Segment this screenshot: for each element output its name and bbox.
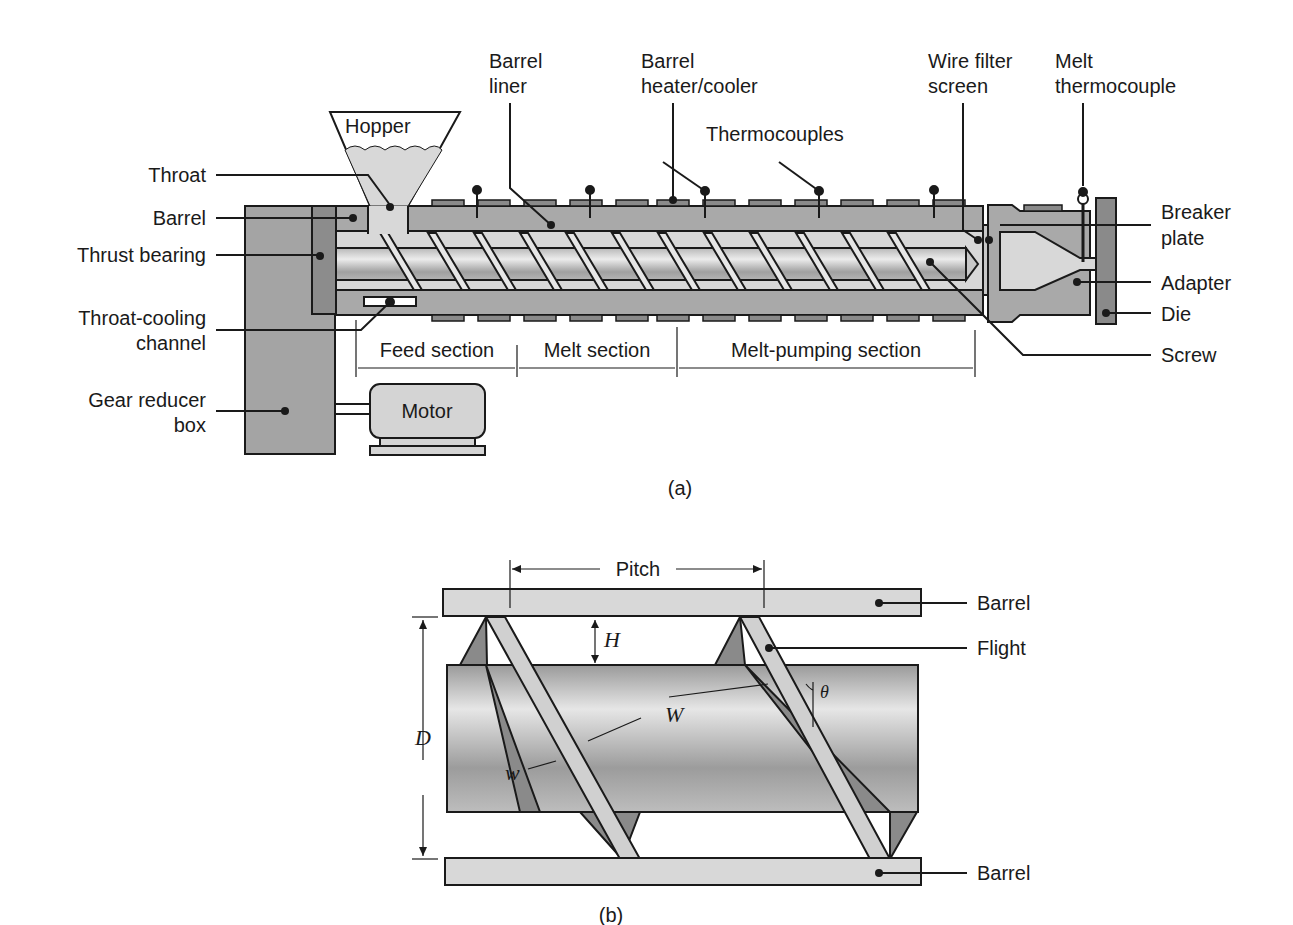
label-melt-thermocouple: Melt [1055, 50, 1093, 72]
label-throat-cooling: Throat-cooling [78, 307, 206, 329]
label-barrel-heater: Barrel [641, 50, 694, 72]
extruder-diagram: Barrel liner Barrel heater/cooler Wire f… [0, 0, 1293, 925]
label-W: W [665, 702, 685, 727]
barrel-top [443, 589, 921, 616]
svg-text:Hopper: Hopper [345, 115, 411, 137]
label-adapter: Adapter [1161, 272, 1231, 294]
svg-text:Wire filter: Wire filter [928, 50, 1013, 72]
svg-text:box: box [174, 414, 206, 436]
svg-text:θ: θ [820, 682, 829, 702]
label-w: w [505, 760, 520, 785]
label-wire-filter: Wire filter [928, 50, 1013, 72]
die [1096, 198, 1116, 324]
svg-text:Throat-cooling: Throat-cooling [78, 307, 206, 329]
svg-text:thermocouple: thermocouple [1055, 75, 1176, 97]
svg-text:heater/cooler: heater/cooler [641, 75, 758, 97]
svg-text:Flight: Flight [977, 637, 1026, 659]
svg-text:w: w [505, 760, 520, 785]
label-melt-section: Melt section [544, 339, 651, 361]
svg-text:screen: screen [928, 75, 988, 97]
svg-text:H: H [603, 627, 621, 652]
svg-text:Thermocouples: Thermocouples [706, 123, 844, 145]
svg-text:Barrel: Barrel [977, 862, 1030, 884]
label-melt-pumping: Melt-pumping section [731, 339, 921, 361]
label-throat: Throat [148, 164, 206, 186]
svg-text:Pitch: Pitch [616, 558, 660, 580]
svg-text:Melt-pumping section: Melt-pumping section [731, 339, 921, 361]
svg-text:Barrel: Barrel [489, 50, 542, 72]
label-barrel-bottom: Barrel [977, 862, 1030, 884]
label-screw: Screw [1161, 344, 1217, 366]
label-thrust-bearing: Thrust bearing [77, 244, 206, 266]
label-H: H [603, 627, 621, 652]
label-barrel: Barrel [153, 207, 206, 229]
svg-text:Thrust bearing: Thrust bearing [77, 244, 206, 266]
svg-text:Die: Die [1161, 303, 1191, 325]
svg-text:Breaker: Breaker [1161, 201, 1231, 223]
label-feed-section: Feed section [380, 339, 495, 361]
label-flight: Flight [977, 637, 1026, 659]
label-barrel-top: Barrel [977, 592, 1030, 614]
label-die: Die [1161, 303, 1191, 325]
svg-text:channel: channel [136, 332, 206, 354]
figure-a [245, 112, 1116, 455]
svg-text:Gear reducer: Gear reducer [88, 389, 206, 411]
svg-text:Screw: Screw [1161, 344, 1217, 366]
svg-text:W: W [665, 702, 685, 727]
svg-text:Motor: Motor [401, 400, 452, 422]
svg-text:Adapter: Adapter [1161, 272, 1231, 294]
svg-text:Barrel: Barrel [977, 592, 1030, 614]
label-gear-reducer: Gear reducer [88, 389, 206, 411]
svg-text:Barrel: Barrel [153, 207, 206, 229]
svg-text:Throat: Throat [148, 164, 206, 186]
label-theta: θ [820, 682, 829, 702]
label-breaker-plate: Breaker [1161, 201, 1231, 223]
barrel-top-wall-2 [408, 206, 983, 231]
svg-text:(b): (b) [599, 904, 623, 925]
barrel-bottom [445, 858, 921, 885]
figure-b [443, 589, 921, 885]
label-motor: Motor [401, 400, 452, 422]
caption-a: (a) [668, 477, 692, 499]
svg-text:Melt section: Melt section [544, 339, 651, 361]
label-hopper: Hopper [345, 115, 411, 137]
label-D: D [414, 725, 431, 750]
caption-b: (b) [599, 904, 623, 925]
svg-text:(a): (a) [668, 477, 692, 499]
label-barrel-liner-1: Barrel [489, 50, 542, 72]
label-thermocouples: Thermocouples [706, 123, 844, 145]
thrust-bearing [312, 206, 336, 314]
svg-text:Feed section: Feed section [380, 339, 495, 361]
svg-text:liner: liner [489, 75, 527, 97]
svg-text:plate: plate [1161, 227, 1204, 249]
svg-text:D: D [414, 725, 431, 750]
label-pitch: Pitch [616, 558, 660, 580]
svg-text:Barrel: Barrel [641, 50, 694, 72]
barrel-bottom-wall [336, 290, 983, 315]
svg-text:Melt: Melt [1055, 50, 1093, 72]
